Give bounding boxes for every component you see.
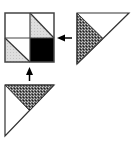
arrow-up-icon [26,67,33,81]
right-triangle [77,13,129,64]
puzzle-diagram [0,0,134,143]
cell-bottom-right [30,38,54,62]
bottom-triangle [5,85,54,136]
cell-top-left [5,13,30,38]
arrow-left-icon [57,35,72,42]
grid-square [5,13,54,62]
